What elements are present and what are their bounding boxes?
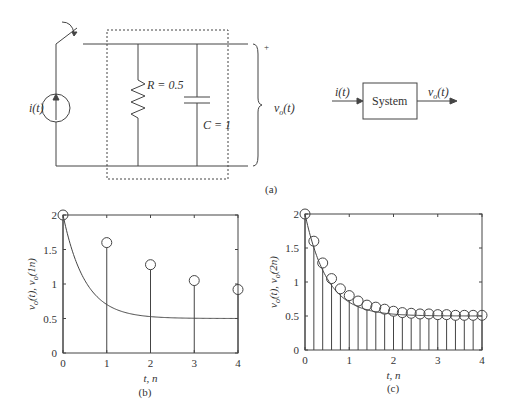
block-input-label: i(t) <box>335 85 350 99</box>
x-tick-label: 4 <box>479 354 485 366</box>
x-tick-label: 0 <box>302 354 308 366</box>
x-tick-label: 2 <box>148 357 154 369</box>
y-tick-label: 1.5 <box>43 244 57 256</box>
y-tick-label: 1 <box>52 278 58 290</box>
capacitor-label: C = 1 <box>203 118 231 132</box>
y-tick-label: 0 <box>294 344 300 356</box>
switch-arrowhead-icon <box>72 32 77 36</box>
x-tick-label: 2 <box>391 354 397 366</box>
y-axis-label: vo(t), vo(2n) <box>267 256 282 308</box>
y-tick-label: 1 <box>294 276 300 288</box>
y-tick-label: 2 <box>294 208 300 220</box>
stem-marker <box>189 276 199 286</box>
x-tick-label: 3 <box>435 354 441 366</box>
figure: + i(t) R = 0.5 C = 1 vo(t) i(t) System v… <box>0 0 505 415</box>
y-axis-label: vo(t), vo(1n) <box>25 258 40 310</box>
caption-a: (a) <box>265 183 278 196</box>
stem-marker <box>327 274 337 284</box>
block-output-label: vo(t) <box>428 85 449 101</box>
system-boundary-box <box>107 30 228 179</box>
stem-marker <box>146 260 156 270</box>
y-tick-label: 2 <box>52 209 58 221</box>
x-axis-label: t, n <box>386 369 401 381</box>
x-tick-label: 4 <box>235 357 241 369</box>
block-system-label: System <box>372 94 408 108</box>
chart-b: 0123400.511.52t, nvo(t), vo(1n) <box>25 209 243 384</box>
x-axis-label: t, n <box>143 372 158 384</box>
y-tick-label: 1.5 <box>285 242 299 254</box>
stem-marker <box>389 306 399 316</box>
x-tick-label: 0 <box>60 357 66 369</box>
circuit-diagram <box>42 22 262 179</box>
output-arrowhead-icon <box>450 98 457 104</box>
stem-marker <box>380 304 390 314</box>
resistor-label: R = 0.5 <box>146 78 183 92</box>
plus-sign: + <box>264 42 269 52</box>
y-tick-label: 0.5 <box>285 310 299 322</box>
x-tick-label: 1 <box>347 354 353 366</box>
caption-c: (c) <box>387 382 400 395</box>
y-tick-label: 0.5 <box>43 313 57 325</box>
chart-c: 0123400.511.52t, nvo(t), vo(2n) <box>267 208 487 381</box>
stem-marker <box>362 300 372 310</box>
y-tick-label: 0 <box>52 347 58 359</box>
x-tick-label: 3 <box>192 357 198 369</box>
stem-marker <box>335 284 345 294</box>
stem-marker <box>344 291 354 301</box>
stem-marker <box>309 236 319 246</box>
output-brace <box>253 44 262 166</box>
source-label: i(t) <box>29 101 44 115</box>
stem-marker <box>371 302 381 312</box>
resistor-icon <box>131 80 145 118</box>
caption-b: (b) <box>139 386 152 399</box>
output-voltage-label: vo(t) <box>274 101 295 117</box>
x-tick-label: 1 <box>104 357 110 369</box>
stem-marker <box>102 238 112 248</box>
input-arrowhead-icon <box>357 98 363 104</box>
